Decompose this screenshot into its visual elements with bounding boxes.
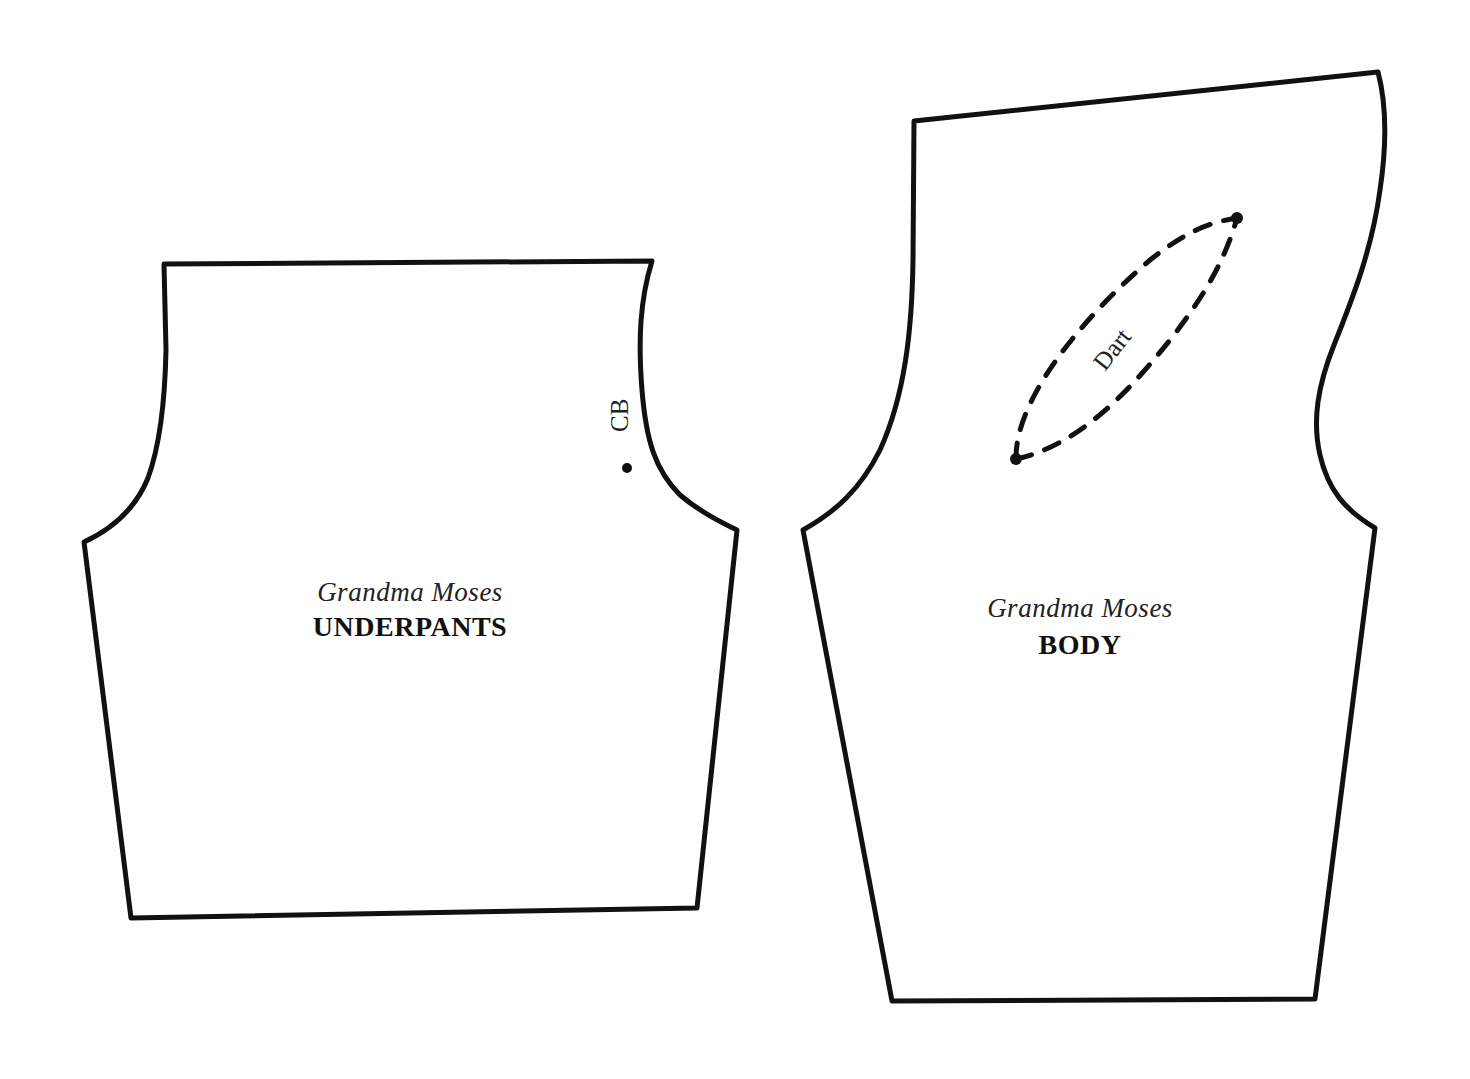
body-brand-label: Grandma Moses — [987, 593, 1173, 623]
underpants-title: UNDERPANTS — [313, 611, 507, 642]
body-outline — [803, 72, 1385, 1001]
body-pattern-piece: Dart Grandma Moses BODY — [803, 72, 1385, 1001]
dart-point-upper-dot — [1231, 212, 1243, 224]
dart-point-lower-dot — [1010, 453, 1022, 465]
cb-marker-dot — [622, 463, 632, 473]
pattern-sheet: CB Grandma Moses UNDERPANTS Dart Grandma… — [0, 0, 1470, 1079]
underpants-pattern-piece: CB Grandma Moses UNDERPANTS — [84, 261, 737, 918]
cb-label: CB — [606, 399, 633, 432]
dart-label: Dart — [1088, 323, 1137, 375]
body-title: BODY — [1039, 629, 1122, 660]
underpants-brand-label: Grandma Moses — [317, 577, 503, 607]
